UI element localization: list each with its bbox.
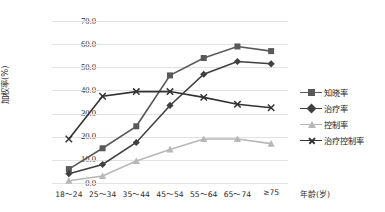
data-point-diamond xyxy=(234,58,241,65)
legend-marker-square-icon xyxy=(308,89,315,96)
legend-label: 治疗控制率 xyxy=(322,134,364,146)
legend-item-治疗率[interactable]: 治疗率 xyxy=(300,100,384,116)
series-控制率 xyxy=(65,135,274,183)
legend-swatch-square-icon xyxy=(300,86,322,98)
gridline xyxy=(52,183,288,184)
data-point-square xyxy=(234,43,240,49)
legend-marker-diamond-icon xyxy=(307,103,317,113)
data-point-square xyxy=(133,123,139,129)
x-tick-label: ≥75 xyxy=(251,188,291,197)
data-point-square xyxy=(201,55,207,61)
data-point-diamond xyxy=(268,60,275,67)
legend-marker-triangle-icon xyxy=(308,121,316,128)
legend-marker-cross-icon xyxy=(308,137,315,144)
plot-area xyxy=(52,21,288,183)
legend-label: 治疗率 xyxy=(322,102,348,114)
series-line xyxy=(69,139,271,181)
legend-label: 控制率 xyxy=(322,118,348,130)
legend: 知晓率治疗率控制率治疗控制率 xyxy=(300,84,384,148)
series-治疗控制率 xyxy=(66,88,275,142)
legend-swatch-triangle-icon xyxy=(300,118,322,130)
legend-item-治疗控制率[interactable]: 治疗控制率 xyxy=(300,132,384,148)
legend-swatch-diamond-icon xyxy=(300,102,322,114)
series-lines xyxy=(52,21,288,183)
x-axis-title: 年龄(岁) xyxy=(300,188,330,199)
y-axis-title: 加权率(%) xyxy=(0,66,10,105)
legend-swatch-cross-icon xyxy=(300,134,322,146)
legend-item-知晓率[interactable]: 知晓率 xyxy=(300,84,384,100)
legend-label: 知晓率 xyxy=(322,86,348,98)
data-point-square xyxy=(167,72,173,78)
line-chart: 加权率(%) 0.010.020.030.040.050.060.070.0 1… xyxy=(0,0,385,212)
legend-item-控制率[interactable]: 控制率 xyxy=(300,116,384,132)
data-point-square xyxy=(100,145,106,151)
data-point-square xyxy=(268,48,274,54)
